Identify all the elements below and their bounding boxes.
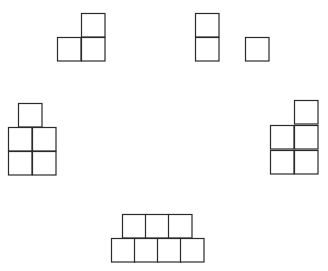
square-tile [146,215,170,239]
square-tile [123,215,147,239]
square-tile [9,152,33,176]
square-tile [33,152,57,176]
square-tile [246,38,270,62]
shape-l-tromino [58,14,106,62]
square-tile [82,38,106,62]
square-tile [169,215,193,239]
shape-pentomino-right [271,101,319,175]
shape-pentomino-left [9,104,57,176]
square-tile [135,239,159,263]
square-tile [295,151,319,175]
square-tile [9,128,33,152]
shape-heptomino-bottom [112,215,205,263]
square-tile [33,128,57,152]
square-tile [82,14,106,38]
square-tile [295,126,319,150]
square-tile [112,239,136,263]
shape-vertical-domino [196,14,220,62]
square-tile [271,126,295,150]
square-tile [181,239,205,263]
shape-monomino [246,38,270,62]
square-tile [196,38,220,62]
square-tile [19,104,43,128]
square-tile [58,38,82,62]
square-tile [295,101,319,125]
square-tile [196,14,220,38]
polyomino-diagram [0,0,328,271]
square-tile [158,239,182,263]
square-tile [271,151,295,175]
